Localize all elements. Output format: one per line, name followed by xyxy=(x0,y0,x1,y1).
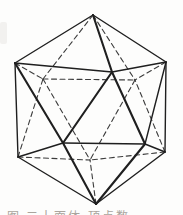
figure-caption: 图 二十面体 顶点数 xyxy=(7,207,177,215)
edge-T-UL xyxy=(15,15,93,63)
edge-UL-FL xyxy=(15,63,63,143)
edge-UR-FR xyxy=(145,62,166,144)
hidden-edge-K1-K2 xyxy=(43,79,135,80)
edge-FR-B xyxy=(96,144,145,204)
edge-T-UR xyxy=(93,15,166,62)
edge-FR-LR xyxy=(145,144,165,152)
icosahedron-wireframe-drawing xyxy=(0,0,183,215)
edge-F1-FR xyxy=(112,72,145,144)
hidden-edge-K2-K3 xyxy=(90,80,135,160)
edge-F1-FL xyxy=(63,72,112,143)
edge-T-F1 xyxy=(93,15,112,72)
icosahedron-figure xyxy=(0,0,183,215)
edge-FL-FR xyxy=(63,143,145,144)
hidden-edge-LR-K2 xyxy=(135,80,165,152)
scanned-page: 图 二十面体 顶点数 xyxy=(0,0,183,215)
edge-FL-LL xyxy=(18,143,63,157)
figure-caption-text: 图 二十面体 顶点数 xyxy=(7,210,130,215)
hidden-edge-LL-K3 xyxy=(18,157,90,160)
edge-UR-LR xyxy=(165,62,166,152)
edge-LR-B xyxy=(96,152,165,204)
edge-UL-F1 xyxy=(15,63,112,72)
edge-UL-LL xyxy=(15,63,18,157)
hidden-edge-LR-K3 xyxy=(90,152,165,160)
